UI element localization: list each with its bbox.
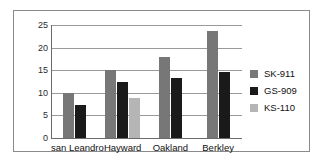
legend-label: GS-909 (264, 86, 297, 96)
bar (219, 72, 230, 138)
bar (63, 93, 74, 138)
chart-screenshot: 0510152025 san LeandroHaywardOaklandBerk… (0, 0, 322, 162)
bar (171, 78, 182, 138)
bar (105, 70, 116, 138)
bar (159, 57, 170, 138)
x-axis-category-labels: san LeandroHaywardOaklandBerkley (51, 142, 242, 156)
bar (117, 82, 128, 138)
bar (129, 98, 140, 138)
plot-area (51, 25, 242, 139)
x-axis-category-label: san Leandro (51, 142, 99, 153)
x-axis-category-label: Hayward (99, 142, 147, 153)
y-axis-tick-label: 5 (43, 111, 48, 120)
legend-swatch-icon (250, 87, 258, 95)
y-axis-tick-label: 0 (43, 134, 48, 143)
chart-frame: 0510152025 san LeandroHaywardOaklandBerk… (13, 10, 310, 152)
legend-item[interactable]: KS-110 (250, 100, 312, 116)
x-axis-category-label: Oakland (147, 142, 195, 153)
legend-swatch-icon (250, 70, 258, 78)
y-axis-tick-label: 10 (38, 89, 48, 98)
bar-group (159, 25, 182, 138)
x-axis-line (51, 138, 242, 139)
y-axis-tick-label: 25 (38, 21, 48, 30)
bar-group (105, 25, 140, 138)
y-axis-line (51, 25, 52, 139)
y-axis-tick-label: 15 (38, 66, 48, 75)
legend: SK-911GS-909KS-110 (250, 66, 312, 117)
bar (75, 105, 86, 138)
bar-group (207, 25, 230, 138)
legend-label: KS-110 (264, 103, 295, 113)
y-axis-tick-labels: 0510152025 (28, 25, 48, 139)
bar-group (63, 25, 86, 138)
y-axis-tick-label: 20 (38, 44, 48, 53)
legend-swatch-icon (250, 104, 258, 112)
bar (207, 31, 218, 138)
legend-label: SK-911 (264, 69, 295, 79)
plot-inner (51, 25, 242, 139)
legend-item[interactable]: GS-909 (250, 83, 312, 99)
x-axis-category-label: Berkley (194, 142, 242, 153)
legend-item[interactable]: SK-911 (250, 66, 312, 82)
